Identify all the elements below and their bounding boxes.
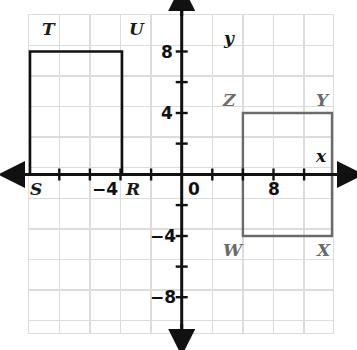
vertex-label-U: U: [129, 19, 144, 39]
x-tick-label-neg4: −4: [92, 179, 118, 199]
x-tick-label-8: 8: [268, 179, 280, 199]
axes: [28, 14, 334, 334]
origin-label: 0: [188, 179, 200, 199]
y-tick-label-8: 8: [161, 42, 173, 62]
vertex-label-T: T: [42, 19, 55, 39]
y-tick-label-neg8: −8: [150, 287, 176, 307]
vertex-label-W: W: [223, 240, 242, 260]
y-tick-label-neg4: −4: [150, 226, 176, 246]
y-tick-label-4: 4: [161, 103, 173, 123]
y-axis-label: y: [224, 28, 234, 48]
x-axis-label: x: [316, 146, 326, 166]
vertex-label-Z: Z: [223, 90, 235, 110]
vertex-label-Y: Y: [316, 90, 328, 110]
coordinate-plane-figure: y x 8 4 0 −4 −8 −4 8 T U S R Z Y W X: [0, 0, 357, 350]
plot-area: y x 8 4 0 −4 −8 −4 8 T U S R Z Y W X: [28, 14, 334, 334]
vertex-label-X: X: [317, 240, 330, 260]
vertex-label-S: S: [30, 179, 42, 199]
vertex-label-R: R: [126, 179, 140, 199]
